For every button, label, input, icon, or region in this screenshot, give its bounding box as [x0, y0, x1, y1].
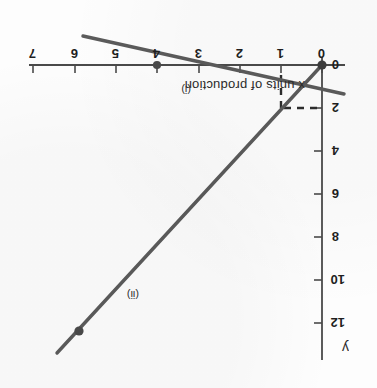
series-label-i: (i): [181, 84, 191, 96]
y-tick-label-4: 4: [332, 143, 339, 158]
x-tick-label-5: 5: [112, 46, 119, 61]
x-tick-label-0: 0: [318, 46, 325, 61]
x-tick-label-2: 2: [236, 46, 243, 61]
y-tick-label-6: 6: [332, 186, 339, 201]
series-i-marker-x4: [153, 61, 161, 69]
y-tick-label-10: 10: [331, 272, 345, 287]
y-tick-label-8: 8: [332, 229, 339, 244]
rotated-graph-canvas: x units of production y 0 1 2 3 4 5 6 7 …: [0, 0, 377, 388]
series-ii-marker-origin: [317, 60, 326, 69]
x-axis-title: x units of production: [184, 78, 305, 93]
series-label-ii: (ii): [127, 289, 139, 301]
series-ii-marker-end: [74, 326, 83, 335]
y-tick-label-0: 0: [332, 57, 339, 72]
x-tick-label-6: 6: [71, 46, 78, 61]
x-tick-label-4: 4: [153, 46, 160, 61]
x-tick-label-1: 1: [277, 46, 284, 61]
y-tick-label-12: 12: [331, 315, 345, 330]
y-axis-title: y: [342, 340, 349, 356]
series-ii-path: [57, 65, 322, 353]
figure-root: x units of production y 0 1 2 3 4 5 6 7 …: [0, 0, 377, 388]
y-tick-label-2: 2: [332, 100, 339, 115]
x-axis-group: [29, 65, 345, 73]
x-tick-label-3: 3: [195, 46, 202, 61]
y-axis-group: [314, 57, 322, 360]
x-tick-label-7: 7: [29, 46, 36, 61]
series-line-ii: [57, 60, 327, 353]
